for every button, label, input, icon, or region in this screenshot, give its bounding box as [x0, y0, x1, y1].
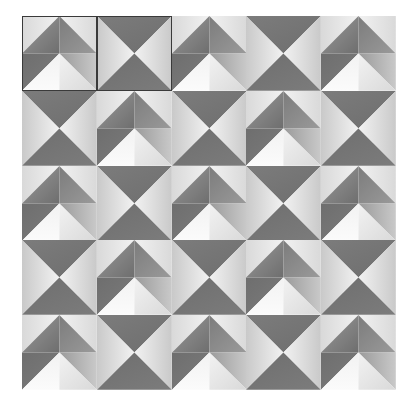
x-diamond-tile[interactable]	[321, 91, 396, 166]
x-diamond-tile[interactable]	[97, 16, 172, 91]
x-diamond-tile[interactable]	[172, 91, 247, 166]
chevron-pyramid-tile-art	[22, 166, 97, 241]
x-diamond-tile-art	[246, 166, 321, 241]
chevron-pyramid-tile[interactable]	[172, 166, 247, 241]
x-diamond-tile[interactable]	[246, 315, 321, 390]
x-diamond-tile-art	[246, 315, 321, 390]
x-diamond-tile[interactable]	[246, 166, 321, 241]
x-diamond-tile[interactable]	[22, 240, 97, 315]
chevron-pyramid-tile[interactable]	[97, 240, 172, 315]
chevron-pyramid-tile-art	[22, 16, 97, 91]
chevron-pyramid-tile-art	[172, 16, 247, 91]
chevron-pyramid-tile[interactable]	[22, 315, 97, 390]
x-diamond-tile[interactable]	[321, 240, 396, 315]
chevron-pyramid-tile-art	[321, 315, 396, 390]
x-diamond-tile-art	[172, 240, 247, 315]
x-diamond-tile[interactable]	[97, 166, 172, 241]
chevron-pyramid-tile-art	[97, 240, 172, 315]
chevron-pyramid-tile[interactable]	[22, 16, 97, 91]
chevron-pyramid-tile[interactable]	[246, 240, 321, 315]
chevron-pyramid-tile-art	[172, 166, 247, 241]
chevron-pyramid-tile-art	[246, 240, 321, 315]
chevron-pyramid-tile[interactable]	[172, 16, 247, 91]
chevron-pyramid-tile-art	[97, 91, 172, 166]
x-diamond-tile[interactable]	[22, 91, 97, 166]
chevron-pyramid-tile-art	[321, 16, 396, 91]
chevron-pyramid-tile[interactable]	[22, 166, 97, 241]
x-diamond-tile-art	[321, 91, 396, 166]
x-diamond-tile-art	[97, 166, 172, 241]
x-diamond-tile-art	[97, 315, 172, 390]
x-diamond-tile-art	[321, 240, 396, 315]
x-diamond-tile[interactable]	[246, 16, 321, 91]
x-diamond-tile-art	[172, 91, 247, 166]
x-diamond-tile[interactable]	[97, 315, 172, 390]
chevron-pyramid-tile[interactable]	[246, 91, 321, 166]
x-diamond-tile-art	[246, 16, 321, 91]
chevron-pyramid-tile[interactable]	[321, 16, 396, 91]
chevron-pyramid-tile-art	[321, 166, 396, 241]
chevron-pyramid-tile-art	[246, 91, 321, 166]
tile-grid[interactable]	[22, 16, 396, 390]
chevron-pyramid-tile-art	[172, 315, 247, 390]
chevron-pyramid-tile[interactable]	[172, 315, 247, 390]
pattern-canvas	[0, 0, 415, 404]
chevron-pyramid-tile[interactable]	[321, 315, 396, 390]
chevron-pyramid-tile[interactable]	[321, 166, 396, 241]
chevron-pyramid-tile-art	[22, 315, 97, 390]
x-diamond-tile-art	[22, 91, 97, 166]
x-diamond-tile-art	[97, 16, 172, 91]
x-diamond-tile[interactable]	[172, 240, 247, 315]
chevron-pyramid-tile[interactable]	[97, 91, 172, 166]
x-diamond-tile-art	[22, 240, 97, 315]
